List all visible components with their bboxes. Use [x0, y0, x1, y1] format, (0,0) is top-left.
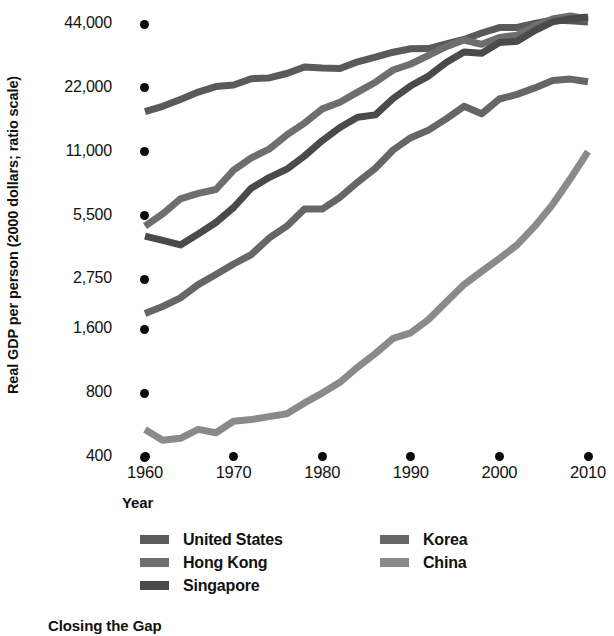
- legend-swatch: [140, 535, 169, 544]
- legend-label: China: [423, 554, 466, 572]
- legend-label: Korea: [423, 531, 467, 549]
- legend-item: Hong Kong: [140, 551, 283, 574]
- legend-swatch: [140, 581, 169, 590]
- x-tick-marker: [318, 452, 327, 461]
- x-tick-label: 1990: [393, 463, 429, 482]
- legend-item: Korea: [380, 528, 467, 551]
- legend-item: China: [380, 551, 467, 574]
- legend-swatch: [380, 535, 409, 544]
- legend-swatch: [140, 558, 169, 567]
- series-line: [145, 17, 588, 245]
- legend-item: United States: [140, 528, 283, 551]
- x-tick-label: 1960: [127, 463, 163, 482]
- plot-area: [0, 0, 614, 480]
- x-tick-marker: [406, 452, 415, 461]
- legend-label: United States: [183, 531, 283, 549]
- x-tick-marker: [495, 452, 504, 461]
- x-tick-label: 2010: [570, 463, 606, 482]
- x-axis-title: Year: [122, 494, 153, 511]
- x-tick-marker: [584, 452, 593, 461]
- legend-swatch: [380, 558, 409, 567]
- x-tick-label: 2000: [481, 463, 517, 482]
- figure-caption: Closing the Gap: [48, 617, 162, 634]
- legend-item: Singapore: [140, 574, 283, 597]
- x-tick-label: 1980: [304, 463, 340, 482]
- x-tick-marker: [229, 452, 238, 461]
- series-line: [145, 152, 588, 441]
- x-tick-marker: [141, 452, 150, 461]
- chart-figure: Real GDP per person (2000 dollars; ratio…: [0, 0, 614, 636]
- legend-column-left: United StatesHong KongSingapore: [140, 528, 283, 597]
- legend-label: Hong Kong: [183, 554, 267, 572]
- legend-label: Singapore: [183, 577, 259, 595]
- x-tick-label: 1970: [216, 463, 252, 482]
- legend-column-right: KoreaChina: [380, 528, 467, 574]
- series-line: [145, 16, 588, 226]
